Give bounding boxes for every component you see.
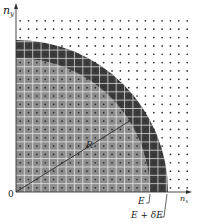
x-axis-arrow-icon	[186, 190, 192, 194]
outer-energy-label: E + δE	[130, 210, 163, 220]
y-axis-arrow-icon	[14, 3, 18, 9]
inner-energy-label: E	[137, 196, 145, 206]
n-space-diagram: ny nx 0 R E E + δE	[0, 0, 198, 224]
inner-energy-pointer	[146, 194, 150, 203]
radius-label: R	[85, 140, 93, 150]
lattice-points	[19, 20, 188, 189]
x-axis-label: nx	[180, 194, 189, 204]
y-axis-label: ny	[3, 4, 15, 18]
origin-label: 0	[8, 189, 14, 199]
